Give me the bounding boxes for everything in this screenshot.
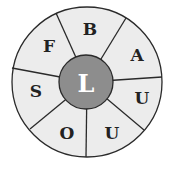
- segment-letter-o[interactable]: O: [60, 123, 75, 143]
- word-wheel: B A U U O S F L: [0, 0, 170, 169]
- segment-letter-f[interactable]: F: [43, 36, 55, 56]
- segment-letter-u1[interactable]: U: [135, 88, 150, 108]
- segment-letter-b[interactable]: B: [83, 19, 97, 39]
- segment-letter-a[interactable]: A: [129, 45, 144, 65]
- segment-letter-s[interactable]: S: [30, 81, 42, 101]
- center-letter[interactable]: L: [78, 69, 95, 98]
- segment-letter-u2[interactable]: U: [105, 123, 120, 143]
